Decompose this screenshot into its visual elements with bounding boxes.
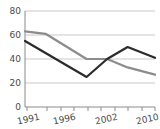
y-tick-label-0: 0 <box>15 102 21 112</box>
chart-background <box>0 0 160 129</box>
line-chart: 80 60 40 20 0 1991 1996 2002 2010 <box>0 0 160 129</box>
y-tick-label-60: 60 <box>10 30 22 40</box>
y-tick-label-80: 80 <box>10 6 22 16</box>
y-tick-label-20: 20 <box>10 78 22 88</box>
y-tick-label-40: 40 <box>10 54 22 64</box>
chart-canvas: 80 60 40 20 0 1991 1996 2002 2010 <box>0 0 160 129</box>
